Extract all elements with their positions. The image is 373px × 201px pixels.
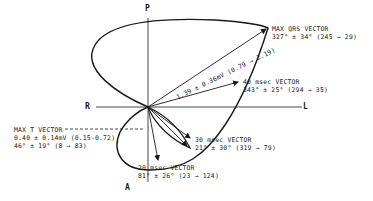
max-t-label: MAX T VECTOR 0.40 ± 0.14mV (0.15-0.72) 4… (14, 126, 115, 150)
v20-label: 20 msec VECTOR 81° ± 26° (23 → 124) (138, 164, 219, 180)
v20-value: 81° ± 26° (23 → 124) (138, 172, 219, 180)
max-t-title: MAX T VECTOR (14, 126, 115, 134)
max-t-magnitude: 0.40 ± 0.14mV (0.15-0.72) (14, 134, 115, 142)
v30-title: 30 msec VECTOR (195, 136, 276, 144)
max-qrs-label: MAX QRS VECTOR 327° ± 34° (245 → 29) (272, 25, 357, 41)
axis-label-r: R (85, 102, 90, 111)
max-qrs-arrow (148, 29, 266, 107)
axis-label-l: L (303, 102, 308, 111)
v30-value: 21° ± 30° (319 → 79) (195, 144, 276, 152)
axis-label-p: P (145, 4, 150, 13)
v40-title: 40 msec VECTOR (243, 78, 328, 86)
v20-title: 20 msec VECTOR (138, 164, 219, 172)
v30-label: 30 msec VECTOR 21° ± 30° (319 → 79) (195, 136, 276, 152)
axis-label-a: A (125, 183, 130, 192)
max-t-value: 46° ± 19° (8 → 83) (14, 142, 115, 150)
v30-arrow (148, 107, 190, 138)
max-qrs-value: 327° ± 34° (245 → 29) (272, 33, 357, 41)
vectorcardiogram-diagram: P A R L 1.39 ± 0.36mV (0.79 → 2.19) MAX … (0, 0, 373, 201)
max-qrs-title: MAX QRS VECTOR (272, 25, 357, 33)
v40-label: 40 msec VECTOR 343° ± 25° (294 → 35) (243, 78, 328, 94)
v40-value: 343° ± 25° (294 → 35) (243, 86, 328, 94)
